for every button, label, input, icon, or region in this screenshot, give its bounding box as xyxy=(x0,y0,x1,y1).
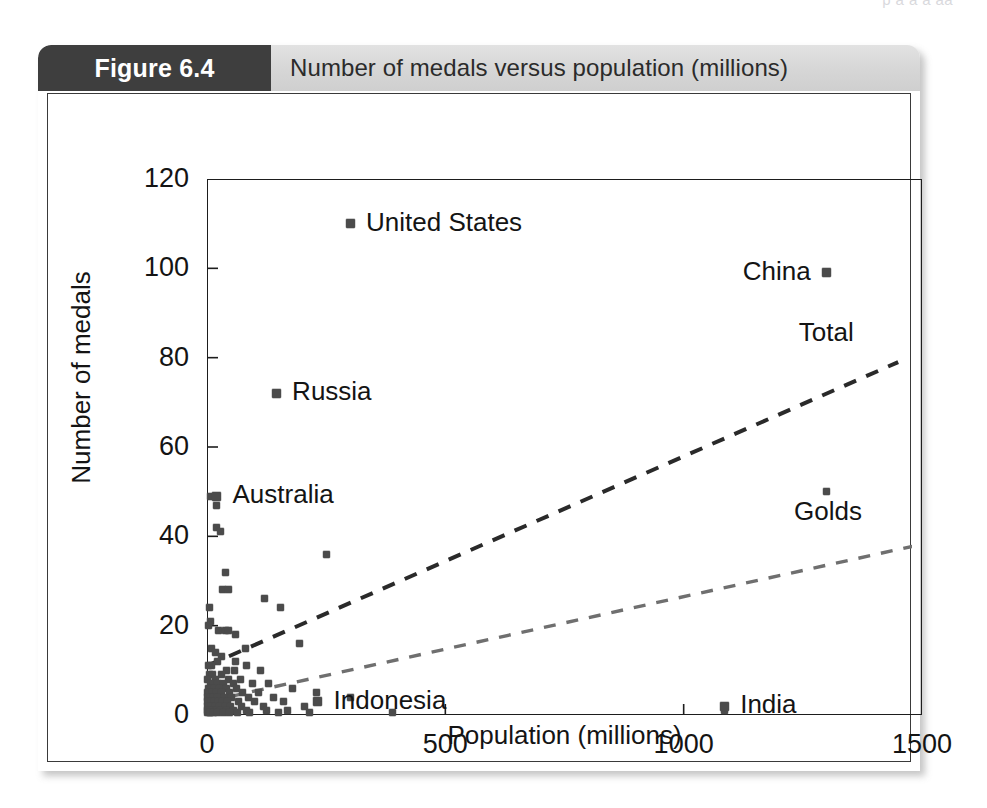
y-axis-title: Number of medals xyxy=(66,178,97,578)
x-axis-title: Population (millions) xyxy=(207,720,922,751)
figure-card: Figure 6.4 Number of medals versus popul… xyxy=(38,45,920,771)
figure-header-bar: Figure 6.4 Number of medals versus popul… xyxy=(38,45,920,91)
chart-canvas xyxy=(48,94,912,763)
running-head: p a a a aa xyxy=(0,0,987,9)
plot-panel: 020406080100120050010001500TotalGoldsUni… xyxy=(47,93,911,762)
figure-title: Number of medals versus population (mill… xyxy=(290,45,912,91)
figure-number-tab: Figure 6.4 xyxy=(38,45,271,91)
